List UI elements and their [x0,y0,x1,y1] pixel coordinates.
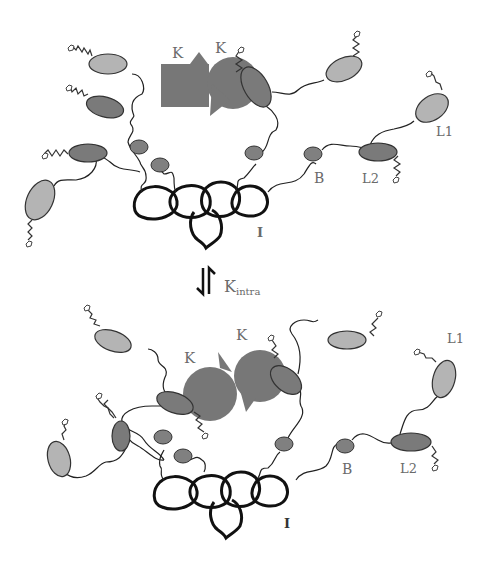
bead-2-bottom [174,449,192,463]
top-panel: K K I [19,31,453,248]
bead-B-bottom [336,439,354,453]
label-L2-bottom: L2 [400,461,417,476]
kinase-label-1: K [172,44,184,62]
domain-L2-top [359,143,397,161]
domain-light-2-bottom [44,439,75,479]
scaffold-label-I-top: I [257,225,263,240]
label-B-top: B [314,170,324,186]
scaffold-I-bottom [154,472,287,538]
bottom-panel: K K I [44,305,464,538]
domain-L1-top [410,88,453,128]
kinase-label-3: K [184,349,196,367]
figure-canvas: K K I [0,0,486,565]
domain-dark-2-bottom [112,421,130,451]
kinase-label-2: K [215,39,227,57]
domain-light-1-bottom [92,325,135,357]
domain-light-2-top [19,175,60,224]
kinase-label-4: K [236,326,248,344]
bead-2-top [151,158,169,172]
domain-dark-1-top [84,92,126,121]
domain-dark-2-top [69,144,107,162]
equilibrium-arrows [197,268,215,294]
domain-L1-bottom [428,358,459,400]
label-L1-bottom: L1 [447,331,464,346]
domain-light-3-bottom [328,331,366,349]
scaffold-label-I-bottom: I [284,516,290,531]
bead-1-bottom [154,430,172,444]
label-B-bottom: B [342,461,352,477]
kinase-square-top [161,52,209,107]
bead-3-top [245,146,263,160]
domain-light-3-top [322,51,366,87]
bead-1-top [130,140,148,154]
label-L2-top: L2 [362,171,379,186]
domain-light-1-top [89,54,127,74]
bead-B-top [304,147,322,161]
domain-L2-bottom [391,433,431,451]
label-L1-top: L1 [436,124,453,139]
bead-3-bottom [275,437,293,451]
equilibrium-constant: Kintra [224,277,260,297]
scaffold-I-top [134,182,267,248]
